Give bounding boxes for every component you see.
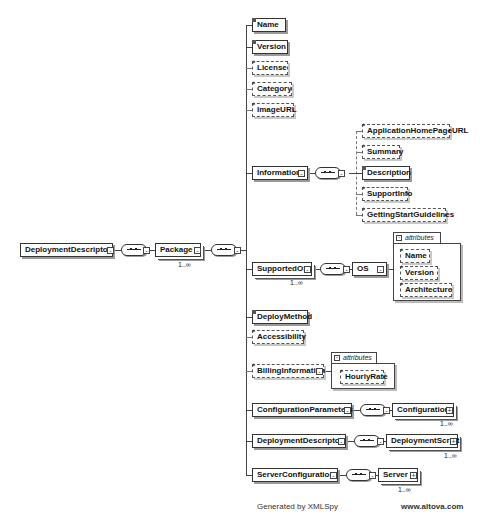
expand-icon[interactable]: + xyxy=(450,438,457,445)
attributes-label: attributes xyxy=(343,354,372,361)
attribute-label: Version xyxy=(405,268,434,277)
cardinality-label: 1..∞ xyxy=(398,486,411,493)
element-label: DeployMethod xyxy=(257,312,312,321)
element-gettingstartguidelines[interactable]: GettingStartGuidelines xyxy=(362,208,446,222)
collapse-icon[interactable]: - xyxy=(338,438,345,445)
collapse-icon[interactable]: - xyxy=(194,247,201,254)
attributes-box: Name Version Architecture xyxy=(393,243,461,301)
element-label: Information xyxy=(257,168,301,177)
connector xyxy=(308,173,315,174)
element-summary[interactable]: Summary xyxy=(362,145,400,159)
collapse-icon[interactable]: - xyxy=(304,266,311,273)
spine xyxy=(246,25,247,476)
element-billinginformation[interactable]: BillingInformation xyxy=(252,364,324,378)
element-deploymentdescriptor[interactable]: DeploymentDescriptor xyxy=(252,434,346,448)
root-element-deploymentdescriptor[interactable]: DeploymentDescriptor xyxy=(20,243,113,257)
element-label: Description xyxy=(367,168,411,177)
element-label: ApplicationHomePageURL xyxy=(367,126,468,135)
attribute-label: Name xyxy=(405,251,427,260)
element-accessibility[interactable]: Accessibility xyxy=(252,330,304,344)
generated-by-label: Generated by XMLSpy xyxy=(257,502,338,511)
element-label: Configuration xyxy=(397,405,449,414)
collapse-icon[interactable]: - xyxy=(334,355,340,361)
element-label: DeploymentDescriptor xyxy=(257,436,343,445)
element-imageurl[interactable]: ImageURL xyxy=(252,103,294,117)
collapse-icon[interactable]: - xyxy=(377,266,384,273)
collapse-icon[interactable]: - xyxy=(107,247,114,254)
element-label: Accessibility xyxy=(257,332,306,341)
attributes-header[interactable]: - attributes xyxy=(331,352,377,363)
element-label: Name xyxy=(257,20,279,29)
element-supportinfo[interactable]: SupportInfo xyxy=(362,187,408,201)
attribute-name[interactable]: Name xyxy=(400,249,430,263)
collapse-icon[interactable]: - xyxy=(338,170,345,177)
element-label: Package xyxy=(160,245,192,254)
collapse-icon[interactable]: - xyxy=(298,170,305,177)
attribute-hourlyrate[interactable]: HourlyRate xyxy=(340,370,384,384)
collapse-icon[interactable]: - xyxy=(396,235,402,241)
element-license[interactable]: License xyxy=(252,61,288,75)
cardinality-label: 1..∞ xyxy=(178,261,191,268)
element-label: DeploymentDescriptor xyxy=(25,245,111,254)
element-applicationhomepageurl[interactable]: ApplicationHomePageURL xyxy=(362,124,450,138)
collapse-icon[interactable]: - xyxy=(343,266,350,273)
element-label: Summary xyxy=(367,147,403,156)
attribute-architecture[interactable]: Architecture xyxy=(400,283,452,297)
expand-icon[interactable]: + xyxy=(410,472,417,479)
cardinality-label: 1..∞ xyxy=(440,420,453,427)
element-label: Version xyxy=(257,42,286,51)
element-configurationparameters[interactable]: ConfigurationParameters xyxy=(252,403,352,417)
element-name[interactable]: Name xyxy=(252,18,286,32)
altova-url[interactable]: www.altova.com xyxy=(401,502,463,511)
element-label: ConfigurationParameters xyxy=(257,405,353,414)
element-serverconfiguration[interactable]: ServerConfiguration xyxy=(252,468,338,482)
element-deploymentscript[interactable]: DeploymentScript xyxy=(386,434,458,448)
element-label: License xyxy=(257,63,287,72)
element-description[interactable]: Description xyxy=(362,166,410,180)
connector xyxy=(349,173,356,174)
attribute-version[interactable]: Version xyxy=(400,266,438,280)
element-label: GettingStartGuidelines xyxy=(367,210,454,219)
element-label: SupportInfo xyxy=(367,189,412,198)
element-configuration[interactable]: Configuration xyxy=(392,403,454,417)
xml-schema-diagram: DeploymentDescriptor - - Package - 1..∞ … xyxy=(0,0,480,528)
element-label: Server xyxy=(383,470,408,479)
collapse-icon[interactable]: - xyxy=(344,407,351,414)
attributes-label: attributes xyxy=(405,234,434,241)
collapse-icon[interactable]: - xyxy=(316,368,323,375)
collapse-icon[interactable]: - xyxy=(377,438,384,445)
attribute-label: Architecture xyxy=(405,285,452,294)
collapse-icon[interactable]: - xyxy=(383,407,390,414)
element-label: ServerConfiguration xyxy=(257,470,334,479)
attributes-box: HourlyRate xyxy=(331,363,395,389)
element-version[interactable]: Version xyxy=(252,40,288,54)
attribute-label: HourlyRate xyxy=(345,372,388,381)
cardinality-label: 1..∞ xyxy=(290,279,303,286)
expand-icon[interactable]: + xyxy=(446,407,453,414)
element-label: Category xyxy=(257,84,292,93)
cardinality-label: 1..∞ xyxy=(444,452,457,459)
collapse-icon[interactable]: - xyxy=(234,247,241,254)
collapse-icon[interactable]: - xyxy=(330,472,337,479)
attributes-header[interactable]: - attributes xyxy=(393,232,441,243)
element-category[interactable]: Category xyxy=(252,82,292,96)
element-label: ImageURL xyxy=(257,105,297,114)
collapse-icon[interactable]: - xyxy=(369,472,376,479)
element-label: OS xyxy=(357,264,369,273)
collapse-icon[interactable]: - xyxy=(143,247,150,254)
connector xyxy=(113,250,121,251)
element-supportedos[interactable]: SupportedOS xyxy=(252,262,312,276)
element-label: SupportedOS xyxy=(257,264,309,273)
element-deploymethod[interactable]: DeployMethod xyxy=(252,310,308,324)
